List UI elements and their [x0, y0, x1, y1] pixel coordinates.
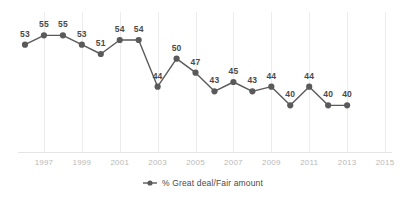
data-point-label: 44	[153, 71, 163, 81]
x-tick-label: 1997	[35, 158, 54, 167]
data-point	[155, 84, 161, 90]
series-markers	[22, 32, 350, 108]
data-point-label: 55	[58, 19, 68, 29]
data-point	[192, 70, 198, 76]
x-tick-label: 2011	[300, 158, 318, 167]
data-point	[287, 102, 293, 108]
x-tick-label: 2015	[376, 158, 395, 167]
data-point-label: 40	[285, 89, 295, 99]
legend-marker-icon	[143, 179, 157, 187]
x-tick-label: 1999	[73, 158, 92, 167]
data-point-label: 44	[266, 71, 276, 81]
x-tick-label: 2009	[262, 158, 281, 167]
line-chart: 535555535154544450474345434440444040 199…	[0, 0, 406, 199]
data-point-label: 55	[39, 19, 49, 29]
data-point-label: 50	[172, 43, 182, 53]
data-point-label: 54	[134, 24, 144, 34]
data-point-label: 44	[304, 71, 314, 81]
data-point	[41, 32, 47, 38]
data-point	[117, 37, 123, 43]
data-point	[79, 42, 85, 48]
data-point	[249, 88, 255, 94]
x-tick-label: 2007	[224, 158, 243, 167]
data-point	[136, 37, 142, 43]
series-line	[25, 35, 347, 105]
data-point-label: 53	[77, 29, 87, 39]
data-point	[60, 32, 66, 38]
data-point-label: 43	[247, 75, 257, 85]
x-tick-label: 2001	[110, 158, 129, 167]
data-point-label: 40	[342, 89, 352, 99]
x-tick-label: 2003	[148, 158, 167, 167]
x-tick-label: 2005	[186, 158, 205, 167]
data-point	[173, 56, 179, 62]
data-point-label: 43	[210, 75, 220, 85]
data-point	[22, 42, 28, 48]
x-tick-label: 2013	[338, 158, 357, 167]
data-point-label: 47	[191, 57, 201, 67]
plot-area	[18, 12, 392, 152]
data-point	[325, 102, 331, 108]
data-point-label: 45	[228, 66, 238, 76]
data-point	[268, 84, 274, 90]
x-axis-line	[18, 152, 392, 153]
data-point-label: 40	[323, 89, 333, 99]
data-point-label: 54	[115, 24, 125, 34]
data-point	[98, 51, 104, 57]
data-point	[230, 79, 236, 85]
data-point	[344, 102, 350, 108]
data-point-label: 51	[96, 38, 106, 48]
legend-label: % Great deal/Fair amount	[162, 178, 263, 188]
series-great-deal-fair-amount	[18, 12, 392, 152]
chart-legend: % Great deal/Fair amount	[0, 178, 406, 188]
data-point	[306, 84, 312, 90]
data-point	[211, 88, 217, 94]
data-point-label: 53	[20, 29, 30, 39]
